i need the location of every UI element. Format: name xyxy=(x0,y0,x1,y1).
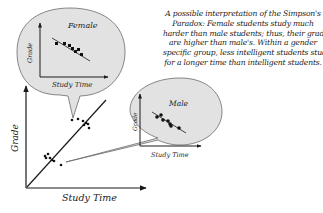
caption-text: A possible interpretation of the Simpson… xyxy=(163,9,323,68)
male-title: Male xyxy=(168,99,189,108)
male-y-label: Grade xyxy=(131,112,138,131)
female-bubble: Female Study Time Grade xyxy=(17,8,125,118)
caption-line: Paradox: Female students study much xyxy=(163,19,323,29)
female-title: Female xyxy=(67,21,98,30)
male-x-label: Study Time xyxy=(151,151,189,159)
caption-line: are higher than male's. Within a gender xyxy=(163,38,323,48)
female-x-label: Study Time xyxy=(52,81,92,89)
caption-line: specific group, less intelligent student… xyxy=(163,48,323,58)
female-y-label: Grade xyxy=(26,43,34,63)
male-cluster-points xyxy=(44,153,63,167)
caption-line: A possible interpretation of the Simpson… xyxy=(163,9,323,19)
caption-line: harder than male students; thus, their g… xyxy=(163,29,323,39)
caption-line: for a longer time than intelligent stude… xyxy=(163,58,323,68)
main-y-label: Grade xyxy=(10,124,20,152)
overall-trend-line xyxy=(27,100,106,187)
main-x-label: Study Time xyxy=(62,192,117,203)
